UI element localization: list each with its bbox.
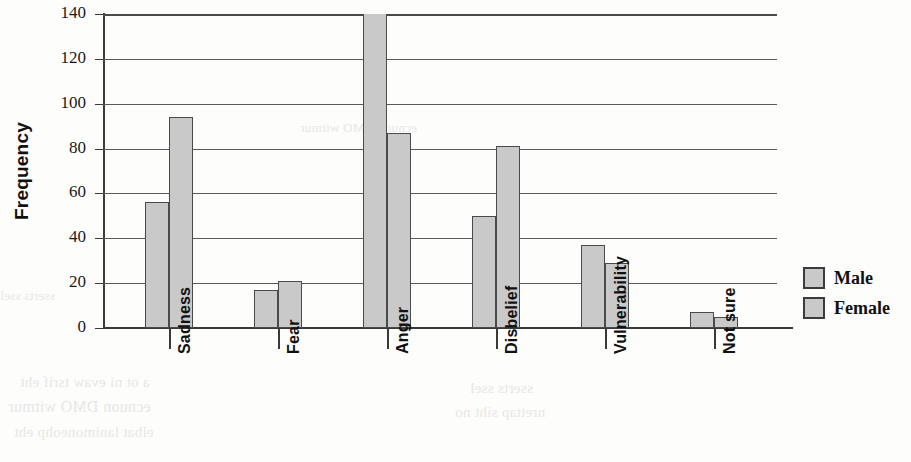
bleedthrough-artifact: a ot ni evaw tsrif eht [20,374,149,391]
x-tick-label-disbelief: Disbelief [503,286,521,355]
bar-male-fear [254,290,278,328]
x-tick-label-anger: Anger [394,307,412,354]
gridline [103,193,777,194]
bleedthrough-artifact: sserts ssel [470,380,533,397]
bar-male-disbelief [472,216,496,328]
gridline [103,59,777,60]
bar-chart-figure: a ot ni evaw tsrif eht ecnuon DMO witmur… [0,0,911,462]
y-tick-label: 60 [40,182,86,202]
y-tick-label: 40 [40,227,86,247]
gridline [103,283,777,284]
bar-male-not-sure [690,312,714,328]
y-tick-label: 120 [40,48,86,68]
x-tick-mark [496,329,498,349]
chart-legend: MaleFemale [803,263,890,323]
x-tick-label-fear: Fear [285,319,303,354]
y-tick-label: 140 [40,3,86,23]
bar-female-anger [387,133,411,328]
bleedthrough-artifact: elbat lanimoneohp eht [14,424,154,441]
x-tick-label-sadness: Sadness [176,287,194,354]
y-tick-label: 0 [40,317,86,337]
x-tick-label-not-sure: Not sure [721,288,739,355]
y-axis-title: Frequency [11,76,33,266]
gridline [103,149,777,150]
x-tick-label-vulnerability: Vulnerability [612,256,630,354]
legend-label: Male [834,268,873,289]
gridline [103,14,777,16]
x-tick-mark [714,329,716,349]
y-tick-mark [95,328,104,329]
gridline [103,104,777,105]
legend-item-female: Female [803,293,890,323]
bleedthrough-artifact: ecnuon DMO witmur [8,398,151,416]
legend-label: Female [834,298,890,319]
y-tick-label: 80 [40,138,86,158]
y-tick-label: 20 [40,272,86,292]
x-tick-mark [169,329,171,349]
x-tick-mark [387,329,389,349]
plot-area [103,14,777,328]
bar-male-anger [363,14,387,328]
legend-swatch-icon [803,297,825,319]
gridline [103,238,777,239]
bleedthrough-artifact: nrettap siht no [455,404,545,421]
legend-swatch-icon [803,267,825,289]
bar-male-sadness [145,202,169,328]
x-tick-mark [605,329,607,349]
legend-item-male: Male [803,263,890,293]
x-tick-mark [278,329,280,349]
y-tick-label: 100 [40,93,86,113]
bar-male-vulnerability [581,245,605,328]
